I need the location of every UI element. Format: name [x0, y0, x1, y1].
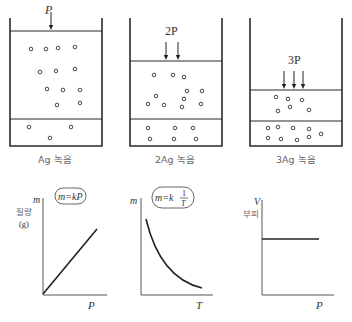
- particle: [300, 98, 304, 102]
- particle: [288, 105, 292, 109]
- particle: [146, 126, 150, 130]
- particle: [274, 95, 278, 99]
- particle: [73, 67, 77, 71]
- graph-mass-vs-pressure: m 질량 (g) P m=kP: [16, 188, 107, 311]
- y-axis-label: m: [33, 194, 40, 205]
- particle: [154, 94, 158, 98]
- particle: [171, 73, 175, 77]
- particle: [307, 108, 311, 112]
- dissolved-particles: [146, 126, 198, 141]
- container-ag: P Ag 녹음: [10, 3, 102, 165]
- container-caption: 3Ag 녹음: [276, 154, 316, 165]
- x-axis-label: P: [87, 299, 95, 311]
- graph-mass-vs-temperature: m T m=k 1 T: [130, 187, 213, 311]
- particle: [180, 105, 184, 109]
- particle: [148, 137, 152, 141]
- container-caption: Ag 녹음: [38, 154, 72, 165]
- y-axis-label-kor: 질량: [16, 207, 32, 217]
- particle: [29, 47, 33, 51]
- y-axis-label: V: [254, 196, 262, 207]
- particle: [276, 125, 280, 129]
- y-axis-unit: (g): [19, 219, 29, 229]
- particle: [44, 47, 48, 51]
- particle: [172, 137, 176, 141]
- x-axis-label: P: [315, 299, 323, 311]
- dissolved-particles: [266, 125, 323, 142]
- particle: [55, 103, 59, 107]
- particle: [191, 126, 195, 130]
- pressure-label: P: [44, 3, 53, 17]
- particle: [307, 127, 311, 131]
- y-axis-label: m: [130, 195, 137, 206]
- particle: [276, 109, 280, 113]
- pressure-label: 3P: [288, 53, 301, 67]
- container-2ag: 2P 2Ag 녹음: [130, 18, 222, 165]
- particle: [185, 89, 189, 93]
- pressure-arrows-icon: [164, 42, 180, 60]
- particle: [56, 46, 60, 50]
- particle: [48, 136, 52, 140]
- particle: [266, 126, 270, 130]
- y-axis-label-kor: 부피: [243, 209, 259, 219]
- particle: [266, 136, 270, 140]
- container-3ag: 3P 3Ag 녹음: [250, 18, 342, 165]
- particle: [295, 138, 299, 142]
- particle: [173, 126, 177, 130]
- gas-particles: [29, 45, 82, 107]
- particle: [307, 135, 311, 139]
- particle: [199, 102, 203, 106]
- particle: [279, 137, 283, 141]
- particle: [38, 70, 42, 74]
- particle: [73, 45, 77, 49]
- particle: [45, 87, 49, 91]
- particle: [54, 69, 58, 73]
- particle: [146, 102, 150, 106]
- particle: [162, 103, 166, 107]
- vessel-outline: [10, 18, 102, 146]
- vessel-outline: [250, 18, 342, 146]
- gas-particles: [146, 73, 204, 109]
- particle: [78, 88, 82, 92]
- pressure-label: 2P: [165, 24, 178, 38]
- particle: [27, 125, 31, 129]
- formula: m=kP: [58, 191, 83, 202]
- inverse-curve: [146, 219, 202, 288]
- particle: [78, 101, 82, 105]
- formula-numerator: 1: [182, 189, 186, 198]
- particle: [319, 132, 323, 136]
- particle: [291, 126, 295, 130]
- formula-prefix: m=k: [155, 192, 174, 203]
- henry-law-diagram: P Ag 녹음 2P 2Ag 녹음 3P 3Ag 녹음 m 질량 (g) P: [0, 0, 352, 322]
- x-axis-label: T: [196, 299, 203, 311]
- particle: [61, 88, 65, 92]
- particle: [200, 89, 204, 93]
- particle: [194, 137, 198, 141]
- container-caption: 2Ag 녹음: [155, 154, 195, 165]
- particle: [69, 125, 73, 129]
- particle: [182, 97, 186, 101]
- dissolved-particles: [27, 125, 73, 140]
- pressure-arrows-icon: [282, 71, 305, 89]
- particle: [152, 73, 156, 77]
- particle: [286, 97, 290, 101]
- particle: [182, 75, 186, 79]
- proportional-line: [43, 229, 97, 294]
- formula-denominator: T: [181, 199, 186, 208]
- gas-particles: [274, 95, 311, 113]
- graph-volume-vs-pressure: V 부피 P: [243, 196, 334, 311]
